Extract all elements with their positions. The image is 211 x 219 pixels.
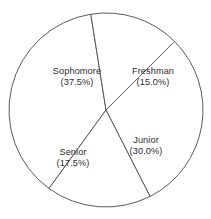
pie-slice-percent-freshman: (15.0%) <box>132 77 174 88</box>
pie-slice-name-sophomore: Sophomore <box>53 66 101 77</box>
pie-slice-percent-sophomore: (37.5%) <box>53 77 101 88</box>
pie-slice-name-junior: Junior <box>130 135 163 146</box>
pie-slices-group <box>9 13 203 207</box>
pie-chart: Sophomore (37.5%) Freshman (15.0%) Junio… <box>0 0 211 219</box>
pie-slice-percent-senior: (17.5%) <box>57 158 90 169</box>
pie-slice-name-senior: Senior <box>57 147 90 158</box>
pie-chart-canvas <box>0 0 211 219</box>
pie-slice-label-junior: Junior (30.0%) <box>130 135 163 158</box>
pie-slice-name-freshman: Freshman <box>132 66 174 77</box>
pie-slice-label-sophomore: Sophomore (37.5%) <box>53 66 101 89</box>
pie-slice-label-senior: Senior (17.5%) <box>57 147 90 170</box>
pie-slice-percent-junior: (30.0%) <box>130 146 163 157</box>
pie-slice-label-freshman: Freshman (15.0%) <box>132 66 174 89</box>
